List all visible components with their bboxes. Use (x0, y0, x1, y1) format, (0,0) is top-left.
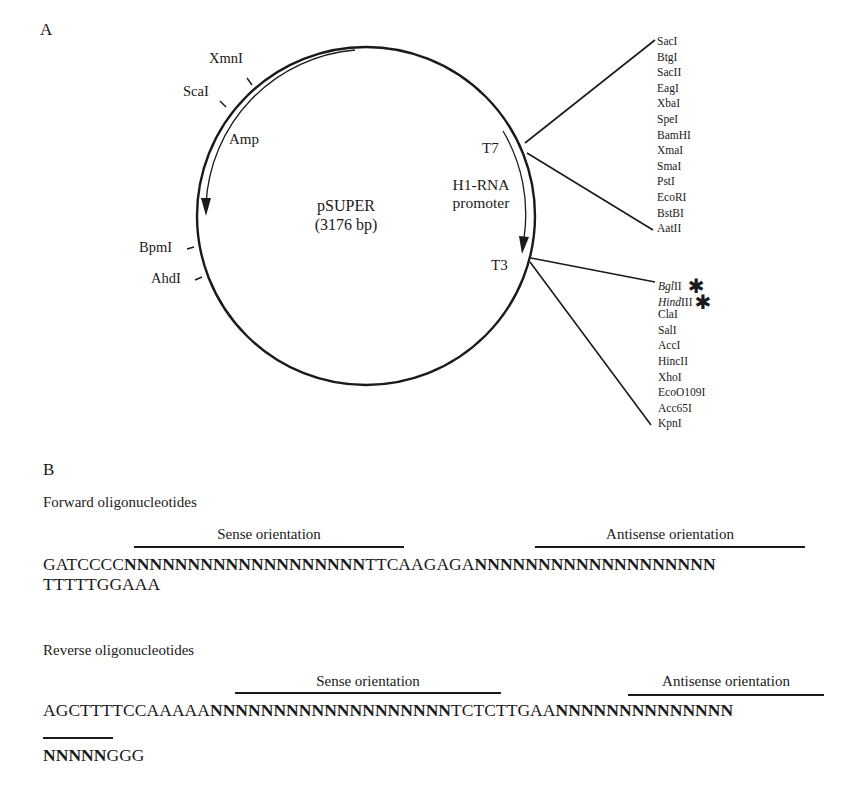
promoter-label: H1-RNA promoter (442, 176, 520, 212)
mcs-site: XhoI (658, 370, 711, 386)
forward-prefix: GATCCCC (43, 554, 124, 574)
bglii-italic: Bgl (658, 280, 674, 292)
site-ahdi: AhdI (151, 270, 181, 287)
panel-b-label: B (43, 460, 54, 480)
reverse-seq-line2: NNNNNGGG (43, 745, 145, 766)
reverse-antisense-n: NNNNNNNNNNNNNN (556, 700, 734, 720)
site-bpmi: BpmI (139, 239, 172, 256)
promoter-label-line2: promoter (442, 194, 520, 212)
reverse-sense-bar (235, 692, 501, 694)
promoter-label-line1: H1-RNA (442, 176, 520, 194)
mcs-site: EcoRI (657, 190, 691, 206)
reverse-suffix: GGG (106, 745, 144, 765)
mcs-site: BtgI (657, 50, 691, 66)
t7-leader-top (525, 40, 655, 143)
scai-tick (220, 101, 226, 107)
forward-antisense-label: Antisense orientation (535, 526, 805, 543)
site-xmni: XmnI (209, 50, 243, 67)
t3-leader-top (531, 258, 655, 282)
mcs-site-hindiii: HindIII✱ (658, 292, 711, 308)
plasmid-size: (3176 bp) (286, 215, 406, 234)
mcs-site: XmaI (657, 143, 691, 159)
asterisk-icon: ✱ (695, 290, 712, 314)
reverse-prefix: AGCTTTTCCAAAAA (43, 700, 210, 720)
mcs-site: Acc65I (658, 401, 711, 417)
forward-seq-line2: TTTTTGGAAA (43, 574, 160, 595)
forward-antisense-n: NNNNNNNNNNNNNNNNNNN (475, 554, 716, 574)
hindiii-italic: Hind (658, 296, 681, 308)
reverse-antisense-label: Antisense orientation (628, 673, 824, 690)
site-scai: ScaI (183, 83, 209, 100)
xmni-tick (247, 78, 252, 85)
reverse-antisense-bar (628, 694, 824, 696)
reverse-sense-label: Sense orientation (235, 673, 501, 690)
reverse-antisense-n-continued: NNNNN (43, 745, 106, 765)
mcs-site: EcoO109I (658, 385, 711, 401)
mcs-site: AatII (657, 221, 691, 237)
mcs-site: KpnI (658, 416, 711, 432)
mcs-site: SmaI (657, 159, 691, 175)
mcs-site: SacI (657, 34, 691, 50)
reverse-loop: TCTCTTGAA (451, 700, 555, 720)
forward-sense-bar (134, 546, 404, 548)
reverse-antisense-bar-continued (43, 737, 113, 739)
mcs-site: SacII (657, 65, 691, 81)
t7-leader-bottom (527, 153, 653, 230)
plasmid-center-label: pSUPER (3176 bp) (286, 196, 406, 234)
mcs-site: AccI (658, 338, 711, 354)
forward-antisense-bar (535, 546, 805, 548)
reverse-sense-n: NNNNNNNNNNNNNNNNNNN (210, 700, 451, 720)
mcs-site: BamHI (657, 128, 691, 144)
plasmid-name: pSUPER (286, 196, 406, 215)
reverse-seq-line1: AGCTTTTCCAAAAANNNNNNNNNNNNNNNNNNNTCTCTTG… (43, 700, 733, 721)
amp-arrowhead (201, 198, 211, 216)
bpmi-tick (187, 247, 194, 249)
reverse-heading: Reverse oligonucleotides (43, 642, 194, 659)
t3-leader-bottom (530, 262, 651, 425)
amp-arrow (206, 50, 355, 204)
mcs-site: PstI (657, 174, 691, 190)
plasmid-map-graphic (0, 0, 854, 460)
mcs-site: SpeI (657, 112, 691, 128)
mcs-site: EagI (657, 81, 691, 97)
forward-seq-line1: GATCCCCNNNNNNNNNNNNNNNNNNNTTCAAGAGANNNNN… (43, 554, 716, 575)
mcs-site: BstBI (657, 206, 691, 222)
forward-sense-n: NNNNNNNNNNNNNNNNNNN (124, 554, 365, 574)
promoter-arrowhead (519, 236, 529, 254)
mcs-site: SalI (658, 323, 711, 339)
mcs-site: HincII (658, 354, 711, 370)
forward-heading: Forward oligonucleotides (43, 494, 197, 511)
ahdi-tick (195, 277, 202, 280)
mcs-upper-list: SacI BtgI SacII EagI XbaI SpeI BamHI Xma… (657, 34, 691, 237)
forward-loop: TTCAAGAGA (365, 554, 474, 574)
mcs-site: XbaI (657, 96, 691, 112)
t3-label: T3 (491, 257, 508, 274)
bglii-roman: II (674, 280, 682, 292)
forward-sense-label: Sense orientation (134, 526, 404, 543)
amp-label: Amp (229, 131, 259, 148)
mcs-lower-list: BglII✱ HindIII✱ ClaI SalI AccI HincII Xh… (658, 276, 711, 432)
t7-label: T7 (482, 140, 499, 157)
